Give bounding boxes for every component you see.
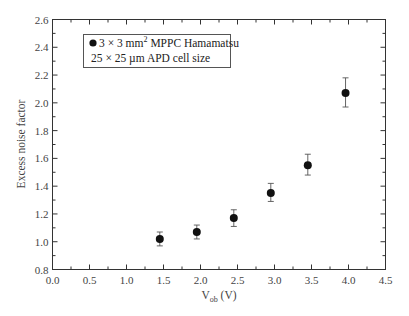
x-tick-label: 4.0 (342, 274, 356, 286)
x-tick-label: 1.5 (157, 274, 171, 286)
data-point (193, 225, 201, 239)
y-tick-labels: 0.81.01.21.41.61.82.02.22.42.6 (35, 14, 49, 276)
y-tick-label: 1.0 (35, 236, 49, 248)
y-tick-label: 2.4 (35, 41, 49, 53)
legend-line-2: 25 × 25 µm APD cell size (91, 52, 210, 65)
y-tick-label: 2.6 (35, 14, 49, 26)
scatter-chart: 0.00.51.01.52.02.53.03.54.04.5 0.81.01.2… (0, 0, 409, 316)
marker-icon (230, 214, 238, 222)
data-point (156, 232, 164, 246)
marker-icon (267, 189, 275, 197)
legend: 3 × 3 mm2 MPPC Hamamatsu 25 × 25 µm APD … (84, 35, 240, 68)
y-axis-label: Excess noise factor (15, 99, 27, 188)
y-tick-label: 1.8 (35, 125, 49, 137)
marker-icon (193, 228, 201, 236)
y-tick-label: 1.6 (35, 152, 49, 164)
y-tick-label: 2.2 (35, 69, 49, 81)
x-tick-label: 2.5 (231, 274, 245, 286)
y-tick-label: 0.8 (35, 264, 49, 276)
marker-icon (342, 89, 350, 97)
x-axis-label: Vob (V) (201, 289, 236, 304)
y-tick-label: 2.0 (35, 97, 49, 109)
data-point (267, 183, 275, 201)
data-point (230, 210, 238, 227)
marker-icon (304, 161, 312, 169)
y-tick-label: 1.4 (35, 180, 49, 192)
data-point (304, 154, 312, 175)
x-tick-label: 4.5 (379, 274, 393, 286)
marker-icon (156, 235, 164, 243)
x-tick-label: 2.0 (194, 274, 208, 286)
x-tick-label: 3.5 (305, 274, 319, 286)
x-tick-label: 1.0 (120, 274, 134, 286)
data-point (342, 78, 350, 107)
legend-marker-icon (89, 39, 96, 46)
data-points (156, 78, 350, 246)
legend-line-1: 3 × 3 mm2 MPPC Hamamatsu (99, 35, 239, 49)
x-tick-label: 0.5 (83, 274, 97, 286)
x-tick-labels: 0.00.51.01.52.02.53.03.54.04.5 (46, 274, 393, 286)
x-tick-label: 3.0 (268, 274, 282, 286)
y-tick-label: 1.2 (35, 208, 49, 220)
